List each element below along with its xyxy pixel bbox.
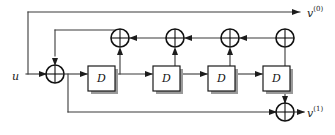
output-v0-label: v(0): [307, 4, 323, 20]
arrow-tap-1: [117, 47, 123, 55]
delay-block-3: D: [208, 66, 238, 94]
arrow-top-output: [292, 9, 300, 15]
arrow-fb-4-to-3: [239, 35, 247, 41]
output-v0-label-superscript: (0): [313, 5, 323, 13]
delay-block-1-label: D: [96, 72, 106, 85]
adder-fb-4: [276, 29, 294, 47]
adder-output: [276, 103, 294, 121]
arrow-to-d3: [200, 71, 208, 77]
bottom-output-path: [294, 109, 305, 115]
output-v1-label: v(1): [307, 104, 323, 120]
delay-block-4-label: D: [271, 72, 281, 85]
delay-block-3-label: D: [216, 72, 226, 85]
arrow-tap-3: [227, 47, 233, 55]
adder-fb-1: [111, 29, 129, 47]
arrow-to-d1: [80, 71, 88, 77]
delay-block-2: D: [153, 66, 183, 94]
delay-block-1: D: [88, 66, 118, 94]
arrow-fb-2-to-1: [129, 35, 137, 41]
adder-input: [46, 65, 64, 83]
systematic-output-path: [28, 9, 300, 74]
adder-fb-3: [221, 29, 239, 47]
delay-block-4: D: [263, 66, 293, 94]
arrow-bottom-output: [297, 109, 305, 115]
feedback-drop-path: [52, 30, 120, 66]
output-v1-label-superscript: (1): [313, 105, 323, 113]
input-label-base: u: [12, 70, 19, 83]
delay-block-2-label: D: [161, 72, 171, 85]
feedback-rail: [129, 35, 276, 41]
arrow-fb-3-to-2: [184, 35, 192, 41]
input-path: [26, 71, 47, 77]
adder-fb-2: [166, 29, 184, 47]
diagram-canvas: D D D D: [0, 0, 335, 135]
arrow-to-d4: [255, 71, 263, 77]
encoder-diagram: D D D D u v(0) v(1): [0, 0, 335, 135]
arrow-to-d2: [145, 71, 153, 77]
input-label: u: [12, 67, 19, 83]
arrow-tap-2: [172, 47, 178, 55]
